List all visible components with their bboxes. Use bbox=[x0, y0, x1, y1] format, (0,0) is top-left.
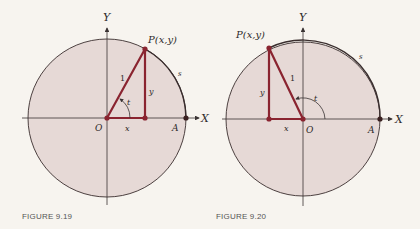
point-A-dot bbox=[183, 115, 188, 120]
point-O-dot bbox=[300, 116, 305, 121]
figure-9-19: Y X P(x,y) O A s x y 1 t bbox=[22, 11, 210, 205]
label-y: y bbox=[148, 87, 154, 96]
label-P: P(x,y) bbox=[147, 34, 177, 45]
unit-circle-figures: Y X P(x,y) O A s x y 1 t Y X P(x,y) O A … bbox=[0, 0, 420, 229]
point-O-dot bbox=[104, 115, 109, 120]
label-X: X bbox=[394, 113, 404, 126]
point-foot-dot bbox=[142, 115, 147, 120]
label-Y: Y bbox=[103, 11, 112, 24]
point-A-dot bbox=[377, 116, 382, 121]
label-A: A bbox=[171, 123, 179, 133]
label-1: 1 bbox=[290, 74, 295, 83]
label-x: x bbox=[125, 124, 130, 133]
point-P-dot bbox=[266, 45, 271, 50]
label-x: x bbox=[284, 124, 289, 133]
label-O: O bbox=[306, 125, 314, 135]
label-A: A bbox=[367, 125, 375, 135]
figure-9-20: Y X P(x,y) O A s x y 1 t bbox=[222, 11, 404, 206]
label-y: y bbox=[259, 88, 265, 97]
label-P: P(x,y) bbox=[235, 29, 265, 40]
label-X: X bbox=[200, 112, 210, 125]
label-Y: Y bbox=[299, 11, 308, 24]
point-foot-dot bbox=[266, 116, 271, 121]
label-O: O bbox=[95, 123, 103, 133]
figure-caption-9-19: FIGURE 9.19 bbox=[22, 212, 72, 221]
point-P-dot bbox=[142, 46, 147, 51]
figure-caption-9-20: FIGURE 9.20 bbox=[216, 212, 266, 221]
label-1: 1 bbox=[120, 74, 125, 83]
label-s: s bbox=[178, 70, 182, 78]
label-s: s bbox=[359, 53, 363, 61]
